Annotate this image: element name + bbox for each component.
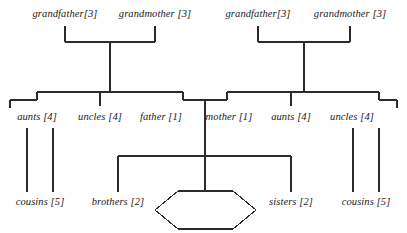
- node-grandmother-right: grandmother [3]: [314, 8, 386, 20]
- node-grandmother-left: grandmother [3]: [119, 8, 191, 20]
- node-grandfather-left: grandfather[3]: [33, 8, 98, 20]
- node-aunts-right: aunts [4]: [271, 111, 311, 123]
- node-uncles-left: uncles [4]: [78, 111, 122, 123]
- node-uncles-right: uncles [4]: [330, 111, 374, 123]
- node-brothers: brothers [2]: [92, 196, 144, 208]
- family-tree-diagram: grandfather[3] grandmother [3] grandfath…: [0, 0, 407, 233]
- node-cousins-right: cousins [5]: [342, 196, 391, 208]
- node-mother: mother [1]: [206, 111, 253, 123]
- node-grandfather-right: grandfather[3]: [226, 8, 291, 20]
- node-aunts-left: aunts [4]: [17, 111, 57, 123]
- node-cousins-left: cousins [5]: [16, 196, 65, 208]
- node-father: father [1]: [140, 111, 182, 123]
- node-sisters: sisters [2]: [269, 196, 313, 208]
- self-hexagon-shape: [155, 191, 256, 229]
